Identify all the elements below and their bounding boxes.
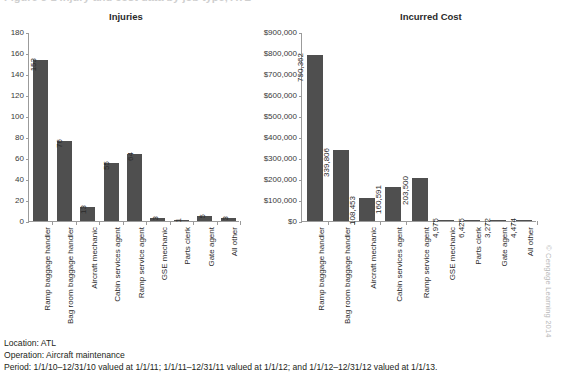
x-axis-category-label: Ramp baggage handler [318,227,326,311]
x-axis-tick [406,221,407,225]
y-axis-tick [26,138,29,139]
y-axis-label: $0 [288,218,297,226]
bar-cost-4: 203,500 [412,178,428,221]
bar-value-label: 64 [122,143,130,152]
x-axis-category-label: Gate agent [501,227,509,267]
y-axis-label: 100 [11,113,24,121]
x-axis-tick [328,221,329,225]
x-axis-category-label: Ramp service agent [138,227,146,298]
bar-injuries-1: 76 [57,141,72,221]
y-axis-label: 0 [20,218,24,226]
y-axis-label: $300,000 [264,155,297,163]
y-axis-tick [26,96,29,97]
y-axis-tick [299,96,302,97]
footnote-operation: Operation: Aircraft maintenance [4,349,437,361]
y-axis-label: 60 [15,155,24,163]
y-axis-tick [26,159,29,160]
plot-area-incurred-cost: $0$100,000$200,000$300,000$400,000$500,0… [301,33,536,222]
y-axis-tick [299,222,302,223]
x-axis-category-label: GSE mechanic [161,227,169,280]
bar-value-label: 203,500 [397,147,405,176]
x-axis-category-label: Bag room baggage handler [67,227,75,324]
bar-injuries-8: 3 [221,218,236,221]
x-axis-tick [193,221,194,225]
x-axis-tick [99,221,100,225]
y-axis-tick [299,201,302,202]
bar-value-label: 790,362 [293,24,301,53]
chart-panel-injuries: Injuries 020406080100120140160180153Ramp… [0,0,250,330]
y-axis-tick [26,180,29,181]
y-axis-label: 40 [15,176,24,184]
bar-value-label: 13 [75,196,83,205]
x-axis-category-label: GSE mechanic [449,227,457,280]
bar-injuries-4: 64 [127,154,142,221]
bar-injuries-0: 153 [33,60,48,221]
x-axis-tick [240,221,241,225]
y-axis-tick [299,159,302,160]
y-axis-tick [299,180,302,181]
x-axis-category-label: Parts clerk [184,227,192,265]
y-axis-label: 20 [15,197,24,205]
x-axis-category-label: Ramp service agent [423,227,431,298]
x-axis-category-label: Parts clerk [475,227,483,265]
bar-value-label: 339,806 [319,119,327,148]
y-axis-label: $500,000 [264,113,297,121]
x-axis-tick [170,221,171,225]
copyright-notice: © Cengage Learning 2014 [544,245,553,338]
bar-value-label: 6,425 [454,198,462,218]
bar-value-label: 55 [99,152,107,161]
bar-injuries-5: 3 [150,218,165,221]
bar-value-label: 108,453 [345,167,353,196]
bar-value-label: 4,474 [506,198,514,218]
bar-value-label: 3 [218,211,226,215]
x-axis-tick [76,221,77,225]
y-axis-label: 140 [11,71,24,79]
x-axis-category-label: Aircraft mechanic [370,227,378,289]
x-axis-category-label: Ramp baggage handler [44,227,52,311]
x-axis-tick [217,221,218,225]
x-axis-category-label: Cabin services agent [396,227,404,302]
x-axis-category-label: All other [527,227,535,256]
y-axis-tick [26,222,29,223]
x-axis-category-label: Bag room baggage handler [344,227,352,324]
y-axis-label: $100,000 [264,197,297,205]
bar-cost-7: 3,272 [490,220,506,221]
y-axis-label: 180 [11,29,24,37]
bar-injuries-2: 13 [80,207,95,221]
chart-title-injuries: Injuries [109,11,143,22]
bar-injuries-3: 55 [104,163,119,221]
bar-value-label: 5 [195,209,203,213]
bar-value-label: 4,975 [428,198,436,218]
bar-cost-5: 4,975 [438,220,454,221]
x-axis-category-label: All other [231,227,239,256]
y-axis-tick [299,138,302,139]
plot-area-injuries: 020406080100120140160180153Ramp baggage … [28,33,239,222]
x-axis-tick [52,221,53,225]
bar-injuries-7: 5 [197,216,212,221]
x-axis-category-label: Aircraft mechanic [91,227,99,289]
y-axis-label: $700,000 [264,71,297,79]
bar-value-label: 76 [52,130,60,139]
footnote-period: Period: 1/1/10–12/31/10 valued at 1/1/11… [4,361,437,373]
y-axis-label: $600,000 [264,92,297,100]
chart-title-incurred-cost: Incurred Cost [400,11,462,22]
x-axis-tick [537,221,538,225]
y-axis-label: $200,000 [264,176,297,184]
bar-value-label: 3,272 [480,198,488,218]
bar-cost-6: 6,425 [464,220,480,221]
footnote-location: Location: ATL [4,337,437,349]
y-axis-tick [26,33,29,34]
x-axis-category-label: Gate agent [208,227,216,267]
y-axis-tick [299,117,302,118]
bar-value-label: 3 [148,211,156,215]
bar-value-label: 153 [26,45,34,58]
y-axis-label: 120 [11,92,24,100]
x-axis-tick [380,221,381,225]
bar-value-label: 160,591 [371,156,379,185]
y-axis-tick [26,201,29,202]
y-axis-label: $400,000 [264,134,297,142]
footnotes: Location: ATL Operation: Aircraft mainte… [4,337,437,373]
bar-injuries-6: 1 [174,220,189,221]
bar-cost-8: 4,474 [516,220,532,221]
x-axis-tick [123,221,124,225]
